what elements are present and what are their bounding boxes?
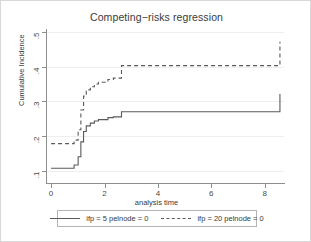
chart-legend: ifp = 5 pelnode = 0 ifp = 20 pelnode = 0 [57, 210, 257, 227]
x-tick-mark [265, 184, 266, 188]
x-tick-mark [105, 184, 106, 188]
series-line-ifp-5 [51, 94, 280, 168]
x-tick-label: 6 [201, 189, 221, 198]
legend-label: ifp = 20 pelnode = 0 [197, 214, 263, 223]
y-tick-mark [42, 136, 46, 137]
y-axis-title: Cumulative Incidence [17, 34, 26, 106]
y-tick-label: .1 [33, 171, 42, 178]
series-line-ifp-20 [51, 42, 280, 144]
y-tick-mark [42, 67, 46, 68]
y-tick-label: .5 [33, 33, 42, 40]
chart-figure: Competing−risks regression .5 .4 .3 .2 .… [0, 0, 311, 242]
x-tick-mark [211, 184, 212, 188]
y-axis-line [46, 29, 47, 184]
y-tick-mark [42, 101, 46, 102]
y-tick-mark [42, 171, 46, 172]
legend-entry-ifp-20: ifp = 20 pelnode = 0 [161, 214, 263, 223]
x-tick-label: 4 [148, 189, 168, 198]
x-tick-label: 8 [255, 189, 275, 198]
x-tick-label: 2 [95, 189, 115, 198]
x-tick-mark [158, 184, 159, 188]
y-tick-mark [42, 32, 46, 33]
legend-label: ifp = 5 pelnode = 0 [86, 214, 148, 223]
chart-title: Competing−risks regression [1, 11, 311, 23]
x-tick-mark [51, 184, 52, 188]
legend-swatch-dashed-icon [161, 218, 191, 219]
y-tick-label: .4 [33, 67, 42, 74]
y-tick-label: .3 [33, 102, 42, 109]
legend-entry-ifp-5: ifp = 5 pelnode = 0 [50, 214, 148, 223]
x-tick-label: 0 [41, 189, 61, 198]
x-axis-line [46, 183, 285, 184]
y-tick-label: .2 [33, 137, 42, 144]
data-curves [47, 32, 284, 181]
legend-swatch-solid-icon [50, 218, 80, 219]
x-axis-title: analysis time [1, 198, 311, 207]
